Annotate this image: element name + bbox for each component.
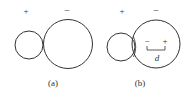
inner-plus: + [162,36,167,46]
inner-minus: − [144,36,149,46]
panel-a: + − (a) [15,5,93,88]
dimension-bracket [147,46,165,50]
caption-a: (a) [48,78,58,88]
dimension-label-d: d [155,53,160,63]
plus-sign: + [119,6,124,16]
small-circle [107,33,135,61]
caption-b: (b) [135,78,146,88]
large-circle [44,20,93,69]
plus-sign: + [23,6,28,16]
panel-b: + − − + d (b) [107,5,180,88]
figure-canvas: + − (a) + − − + d (b) [0,0,191,97]
minus-sign: − [64,5,70,16]
small-circle [15,31,43,59]
minus-sign: − [153,5,159,16]
